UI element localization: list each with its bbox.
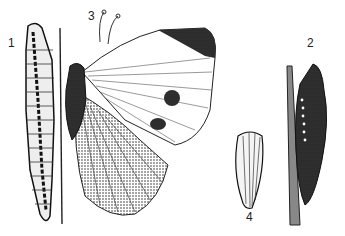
butterfly-drawing (66, 10, 216, 215)
label-chrysalis: 2 (307, 36, 314, 50)
label-caterpillar: 1 (8, 36, 15, 50)
label-egg: 4 (246, 210, 253, 224)
chrysalis-drawing (287, 64, 327, 225)
lifecycle-illustration (0, 0, 345, 236)
caterpillar-drawing (26, 23, 62, 224)
label-butterfly: 3 (88, 9, 95, 23)
egg-drawing (236, 132, 263, 208)
